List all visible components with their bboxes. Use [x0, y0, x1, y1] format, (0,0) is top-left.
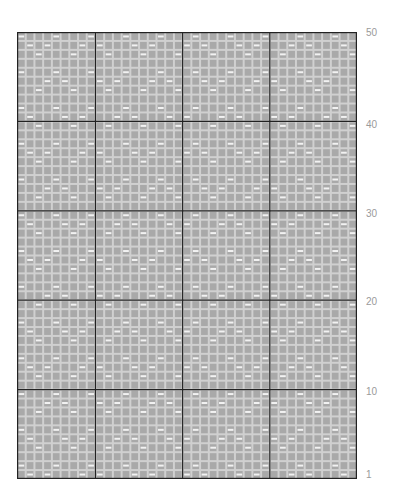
row-label-1: 1 — [366, 470, 372, 480]
row-label-30: 30 — [366, 209, 377, 219]
knitting-chart-grid — [17, 32, 357, 479]
row-label-40: 40 — [366, 120, 377, 130]
row-label-20: 20 — [366, 297, 377, 307]
row-label-10: 10 — [366, 387, 377, 397]
grid-svg — [17, 32, 357, 479]
row-label-50: 50 — [366, 28, 377, 38]
